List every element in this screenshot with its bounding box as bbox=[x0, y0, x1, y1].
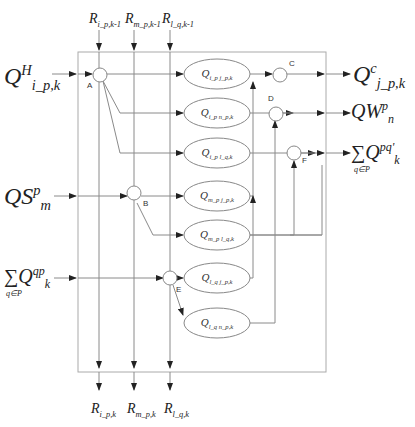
node-b-label: B bbox=[143, 200, 148, 208]
flow-diagram: A B C D E F Ri_p,k-1 Rm_p,k-1 Rl_q,k-1 R… bbox=[0, 0, 415, 427]
node-d-label: D bbox=[268, 95, 274, 103]
node-e bbox=[163, 271, 177, 285]
node-f bbox=[287, 146, 301, 160]
input-label-sum: ∑Qqpk bbox=[4, 266, 50, 286]
node-c-label: C bbox=[289, 60, 295, 68]
input-label-sum-under: q∈P bbox=[6, 290, 22, 298]
output-label-qc: Qcj_p,k bbox=[353, 62, 405, 86]
flow-label-4: Qm_p j_p,k bbox=[190, 190, 244, 201]
flow-label-7: Ql_q n_p,k bbox=[190, 317, 244, 328]
output-label-sum: ∑Qpq'k bbox=[351, 142, 400, 162]
flow-label-2: Qi_p n_p,k bbox=[190, 107, 244, 118]
output-label-sum-under: q∈P bbox=[354, 166, 370, 174]
node-f-label: F bbox=[302, 157, 307, 165]
flow-label-6: Ql_q j_p,k bbox=[190, 272, 244, 283]
top-label-r-lq: Rl_q,k-1 bbox=[162, 12, 194, 26]
flow-label-1: Qi_p j_p,k bbox=[190, 68, 244, 79]
output-label-qw: QWpn bbox=[351, 101, 394, 121]
flow-label-5: Qm_p l_q,k bbox=[190, 229, 244, 240]
input-label-qh: QHi_p,k bbox=[4, 64, 60, 88]
node-d bbox=[269, 107, 283, 121]
node-b bbox=[127, 186, 141, 200]
node-c bbox=[273, 68, 287, 82]
node-e-label: E bbox=[176, 286, 181, 294]
node-a bbox=[93, 68, 107, 82]
bottom-label-r-ip: Ri_p,k bbox=[91, 402, 116, 416]
top-label-r-mp: Rm_p,k-1 bbox=[125, 12, 161, 26]
top-label-r-ip: Ri_p,k-1 bbox=[89, 12, 121, 26]
input-label-qs: QSpm bbox=[4, 184, 51, 208]
node-a-label: A bbox=[87, 82, 92, 90]
bottom-label-r-lq: Rl_q,k bbox=[164, 402, 189, 416]
bottom-label-r-mp: Rm_p,k bbox=[127, 402, 156, 416]
flow-label-3: Qi_p l_q,k bbox=[190, 147, 244, 158]
